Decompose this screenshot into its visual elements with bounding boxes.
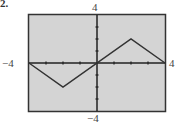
graph-plot (0, 0, 177, 126)
